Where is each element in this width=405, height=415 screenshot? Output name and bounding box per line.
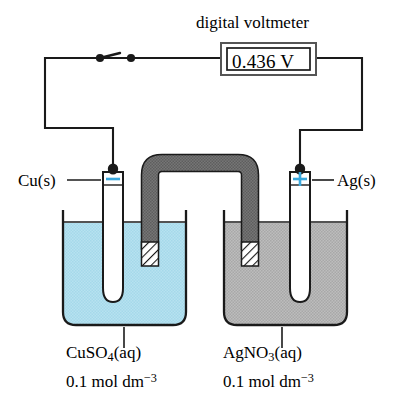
left-solution-state: (aq) (114, 343, 141, 362)
left-conc-exponent: −3 (144, 371, 157, 385)
right-solution-label: AgNO3(aq) (223, 344, 302, 364)
right-solution-concentration: 0.1 mol dm−3 (223, 372, 314, 390)
left-solution-concentration: 0.1 mol dm−3 (66, 372, 157, 390)
silver-electrode-label: Ag(s) (337, 172, 376, 189)
salt-bridge-plug-left (142, 242, 159, 266)
right-solution-state: (aq) (274, 343, 301, 362)
copper-electrode (103, 163, 123, 302)
left-solution-formula: CuSO (66, 343, 108, 362)
diagram-canvas (0, 0, 405, 415)
left-solution-label: CuSO4(aq) (66, 344, 141, 364)
silver-electrode (290, 163, 310, 302)
copper-terminal-knob (108, 163, 118, 174)
copper-electrode-label: Cu(s) (18, 172, 56, 189)
right-solution-formula: AgNO (223, 343, 268, 362)
right-conc-value: 0.1 mol dm (223, 372, 301, 391)
salt-bridge-plug-right (242, 242, 259, 266)
voltmeter-title: digital voltmeter (196, 14, 309, 31)
left-conc-value: 0.1 mol dm (66, 372, 144, 391)
left-beaker (63, 210, 186, 325)
voltmeter-reading: 0.436 V (232, 52, 294, 71)
salt-bridge (142, 155, 259, 267)
right-conc-exponent: −3 (301, 371, 314, 385)
cell-diagram-figure: digital voltmeter 0.436 V Cu(s) Ag(s) Cu… (0, 0, 405, 415)
